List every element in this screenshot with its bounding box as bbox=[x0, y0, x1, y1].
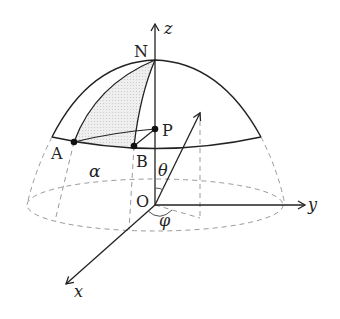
origin-label: O bbox=[136, 192, 149, 211]
point-b-label: B bbox=[136, 152, 148, 171]
x-axis bbox=[66, 205, 155, 284]
chord-bp bbox=[134, 129, 155, 146]
b-dashed-drop bbox=[129, 146, 134, 230]
alpha-label: α bbox=[89, 161, 101, 181]
x-axis-label: x bbox=[74, 282, 83, 301]
shaded-region bbox=[74, 60, 155, 146]
point-p-label: P bbox=[162, 121, 173, 140]
point-b-dot bbox=[131, 143, 138, 150]
y-axis-label: y bbox=[307, 195, 318, 214]
theta-arc bbox=[155, 188, 163, 190]
z-axis-label: z bbox=[163, 19, 173, 38]
phi-label: φ bbox=[159, 211, 171, 230]
theta-label: θ bbox=[158, 161, 168, 180]
point-a-label: A bbox=[50, 144, 63, 163]
left-dashed-side bbox=[27, 137, 52, 205]
point-p-dot bbox=[152, 126, 159, 133]
north-label: N bbox=[134, 42, 148, 61]
hemisphere-diagram: z N P A B α θ O φ y x bbox=[0, 0, 340, 319]
point-a-dot bbox=[71, 139, 78, 146]
